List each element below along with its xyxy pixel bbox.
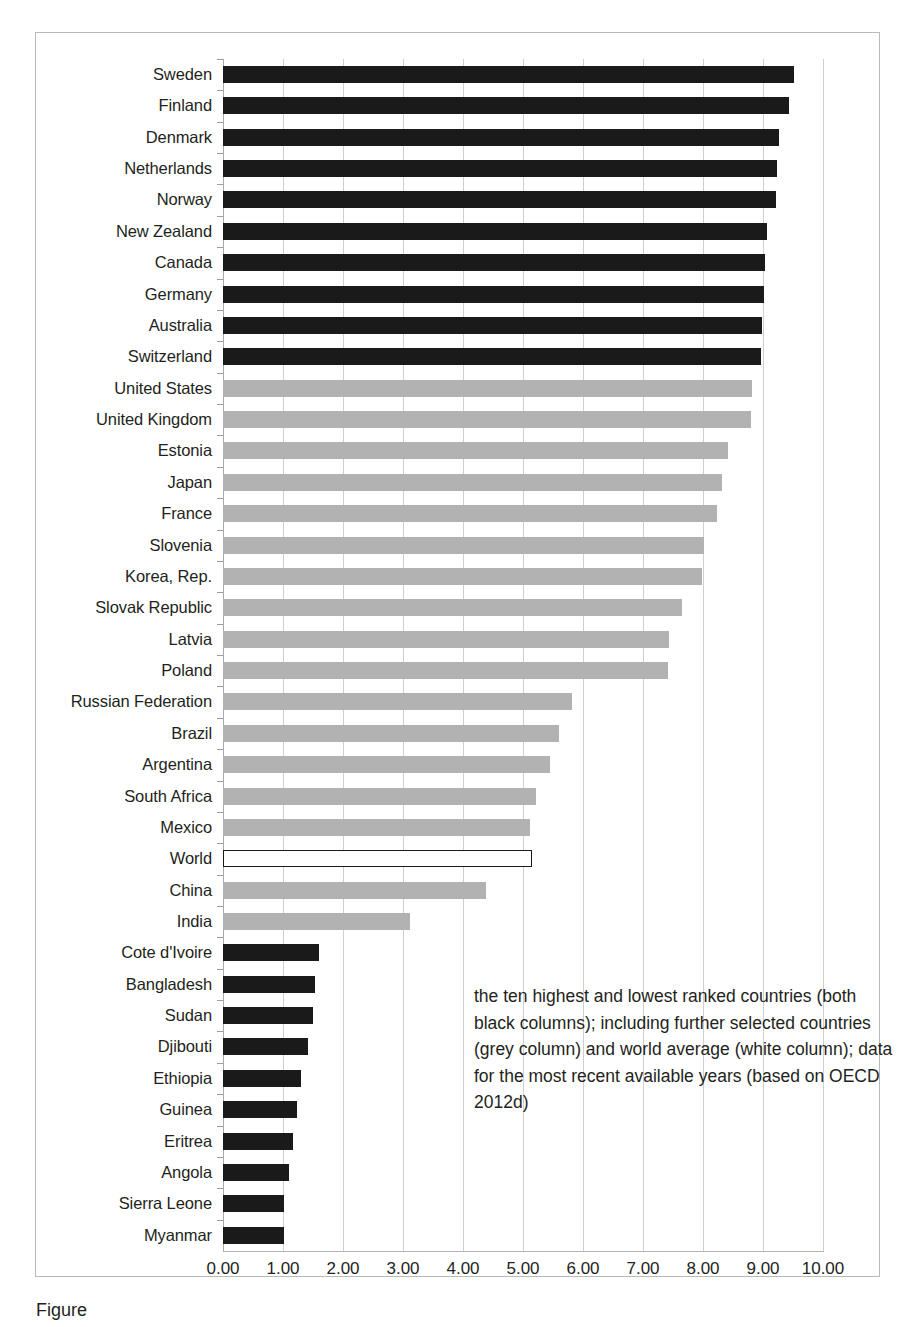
bar[interactable] [223,631,669,648]
y-axis-tick [217,1000,223,1001]
bar[interactable] [223,756,550,773]
bar[interactable] [223,1164,289,1181]
category-label: Korea, Rep. [36,561,212,592]
bar[interactable] [223,599,682,616]
y-axis-tick [217,624,223,625]
category-label: Bangladesh [36,969,212,1000]
bar[interactable] [223,317,762,334]
category-label: Germany [36,279,212,310]
x-axis-tick-labels: 0.001.002.003.004.005.006.007.008.009.00… [36,1259,881,1289]
bar[interactable] [223,97,789,114]
y-axis-tick [217,498,223,499]
y-axis-tick [217,812,223,813]
y-axis-tick [217,749,223,750]
bar[interactable] [223,693,572,710]
y-axis-tick [217,655,223,656]
y-axis-tick [217,530,223,531]
bar[interactable] [223,819,530,836]
chart-annotation: the ten highest and lowest ranked countr… [474,983,894,1116]
category-label: Australia [36,310,212,341]
bar-row: Norway [36,184,881,215]
category-label: Poland [36,655,212,686]
category-label: New Zealand [36,216,212,247]
y-axis-tick [217,843,223,844]
bar[interactable] [223,788,536,805]
category-label: Finland [36,90,212,121]
category-label: Estonia [36,435,212,466]
category-label: Latvia [36,624,212,655]
bar[interactable] [223,254,765,271]
bar-row: Japan [36,467,881,498]
y-axis-tick [217,1031,223,1032]
y-axis-tick [217,373,223,374]
bar-row: Switzerland [36,341,881,372]
bar[interactable] [223,1195,284,1212]
bar[interactable] [223,976,315,993]
y-axis-tick [217,718,223,719]
y-axis-tick [217,592,223,593]
bar[interactable] [223,662,668,679]
y-axis-tick [217,404,223,405]
bar[interactable] [223,1101,297,1118]
bar[interactable] [223,882,486,899]
category-label: Norway [36,184,212,215]
bar[interactable] [223,725,559,742]
bar[interactable] [223,1070,301,1087]
category-label: United Kingdom [36,404,212,435]
y-axis-tick [217,781,223,782]
bar[interactable] [223,442,728,459]
bar[interactable] [223,1133,293,1150]
bar[interactable] [223,191,776,208]
bar-row: India [36,906,881,937]
y-axis-tick [217,937,223,938]
category-label: Denmark [36,122,212,153]
bar[interactable] [223,505,717,522]
bar[interactable] [223,160,777,177]
bar[interactable] [223,944,319,961]
bar-row: South Africa [36,781,881,812]
y-axis-tick [217,310,223,311]
bar[interactable] [223,568,702,585]
bar-row: China [36,875,881,906]
bar[interactable] [223,129,779,146]
y-axis-tick [217,1157,223,1158]
bar-row: Netherlands [36,153,881,184]
bar-row: Mexico [36,812,881,843]
bar-row: Angola [36,1157,881,1188]
bar[interactable] [223,286,764,303]
category-label: India [36,906,212,937]
bar-row: Brazil [36,718,881,749]
y-axis-tick [217,153,223,154]
category-label: Canada [36,247,212,278]
bar[interactable] [223,1007,313,1024]
bar[interactable] [223,411,751,428]
category-label: Argentina [36,749,212,780]
bar[interactable] [223,537,704,554]
bar-row: Korea, Rep. [36,561,881,592]
y-axis-tick [217,247,223,248]
bar[interactable] [223,348,761,365]
bar-row: Argentina [36,749,881,780]
bar[interactable] [223,380,752,397]
category-label: France [36,498,212,529]
bar[interactable] [223,223,767,240]
bar[interactable] [223,474,722,491]
bar[interactable] [223,66,794,83]
category-label: United States [36,373,212,404]
category-label: Netherlands [36,153,212,184]
category-label: Brazil [36,718,212,749]
bar-row: Russian Federation [36,686,881,717]
bar[interactable] [223,1038,308,1055]
bar[interactable] [223,850,532,867]
bar-chart: SwedenFinlandDenmarkNetherlandsNorwayNew… [36,33,879,1276]
y-axis-tick [217,875,223,876]
bar[interactable] [223,913,410,930]
category-label: South Africa [36,781,212,812]
bar-row: New Zealand [36,216,881,247]
y-axis-tick [217,59,223,60]
y-axis-tick [217,216,223,217]
bar[interactable] [223,1227,284,1244]
y-axis-tick [217,1220,223,1221]
y-axis-tick [217,467,223,468]
category-label: Sweden [36,59,212,90]
